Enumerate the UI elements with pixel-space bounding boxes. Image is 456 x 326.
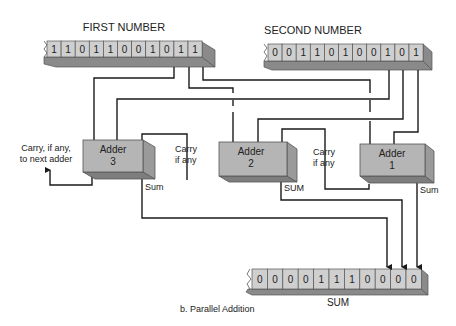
second-register-bit: 1 (315, 47, 321, 58)
adder2-label: Adder (238, 146, 265, 157)
sum-register-bit: 0 (396, 274, 402, 285)
first-register-bit: 0 (136, 44, 142, 55)
adder3-side (143, 140, 155, 179)
carry-1-to-2-text-2: if any (313, 158, 335, 168)
carry-2-to-3-text-1: Carry (175, 144, 197, 154)
second-number-register: 00110100101 (264, 44, 432, 70)
sum-register-break (247, 269, 251, 289)
second-register-bit: 0 (286, 47, 292, 58)
first-register-bit: 1 (108, 44, 114, 55)
first-register-bit: 1 (94, 44, 100, 55)
sum-register: 00001110000 (246, 269, 428, 295)
first-register-bit: 0 (79, 44, 85, 55)
parallel-addition-diagram: FIRST NUMBER 11011001011 SECOND NUMBER 0… (0, 0, 456, 326)
figure-caption: b. Parallel Addition (180, 304, 255, 314)
first-number-title: FIRST NUMBER (83, 21, 165, 33)
wire-first-bit0-to-adder1-a (203, 67, 370, 93)
second-register-bit: 0 (371, 47, 377, 58)
adder1-side (425, 144, 434, 183)
first-register-bit: 0 (164, 44, 170, 55)
second-register-bit: 0 (272, 47, 278, 58)
sum-register-bottom (246, 289, 428, 295)
adder1-sum-label: Sum (420, 185, 439, 195)
adder1-index: 1 (389, 160, 395, 171)
sum-register-bit: 0 (303, 274, 309, 285)
sum-register-bit: 0 (380, 274, 386, 285)
adder1-label: Adder (379, 148, 406, 159)
first-register-bit: 0 (122, 44, 128, 55)
adder2-index: 2 (248, 158, 254, 169)
carry-out-text-1: Carry, if any, (21, 143, 71, 153)
adder-1: Adder 1 (360, 144, 434, 183)
second-register-bit: 1 (343, 47, 349, 58)
second-register-bit: 1 (413, 47, 419, 58)
wire-sum-adder2 (281, 180, 402, 267)
adder2-bottom (219, 176, 297, 182)
adder3-sum-label: Sum (145, 182, 164, 192)
sum-register-bit: 1 (349, 274, 355, 285)
sum-register-title: SUM (327, 297, 349, 308)
sum-register-bit: 1 (319, 274, 325, 285)
first-register-bit: 1 (150, 44, 156, 55)
second-register-break (264, 44, 267, 61)
adder1-bottom (360, 176, 434, 183)
first-register-bit: 1 (192, 44, 198, 55)
second-register-bit: 0 (329, 47, 335, 58)
second-register-bit: 0 (399, 47, 405, 58)
first-register-bottom (44, 57, 215, 67)
second-register-bit: 1 (300, 47, 306, 58)
first-number-register: 11011001011 (44, 41, 215, 67)
sum-register-bit: 1 (334, 274, 340, 285)
first-register-bit: 1 (65, 44, 71, 55)
carry-2-to-3-text-2: if any (175, 155, 197, 165)
carry-1-to-2-text-1: Carry (313, 147, 335, 157)
carry-out-text-2: to next adder (20, 154, 73, 164)
first-register-bit: 1 (51, 44, 57, 55)
second-register-bottom (264, 61, 432, 70)
adder3-index: 3 (110, 156, 116, 167)
first-register-break (44, 41, 47, 57)
sum-register-bit: 0 (257, 274, 263, 285)
second-register-bit: 1 (385, 47, 391, 58)
adder-3: Adder 3 (83, 140, 155, 179)
adder2-sum-label: SUM (284, 183, 304, 193)
second-number-title: SECOND NUMBER (264, 24, 362, 36)
adder2-side (287, 142, 297, 182)
sum-register-bit: 0 (365, 274, 371, 285)
first-register-bit: 1 (178, 44, 184, 55)
adder-2: Adder 2 (219, 142, 297, 182)
sum-register-bit: 0 (272, 274, 278, 285)
adder3-label: Adder (100, 144, 127, 155)
sum-register-bit: 0 (288, 274, 294, 285)
sum-register-bit: 0 (411, 274, 417, 285)
second-register-bit: 0 (357, 47, 363, 58)
wire-second-bit2-to-adder3 (117, 70, 389, 154)
